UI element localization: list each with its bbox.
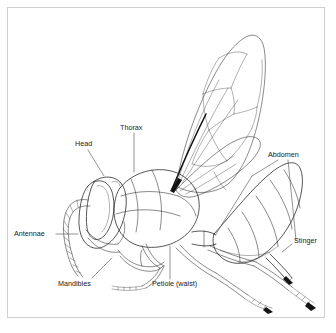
wasp-anatomy-illustration: Head Thorax Abdomen Antennae Mandibles P…	[0, 0, 336, 333]
label-petiole: Petiole (waist)	[152, 279, 197, 288]
label-antennae: Antennae	[14, 229, 45, 238]
label-stinger: Stinger	[294, 236, 317, 245]
label-thorax: Thorax	[120, 123, 143, 132]
label-mandibles: Mandibles	[58, 279, 91, 288]
figure-canvas: Head Thorax Abdomen Antennae Mandibles P…	[0, 0, 336, 333]
label-head: Head	[75, 139, 92, 148]
label-abdomen: Abdomen	[268, 150, 299, 159]
